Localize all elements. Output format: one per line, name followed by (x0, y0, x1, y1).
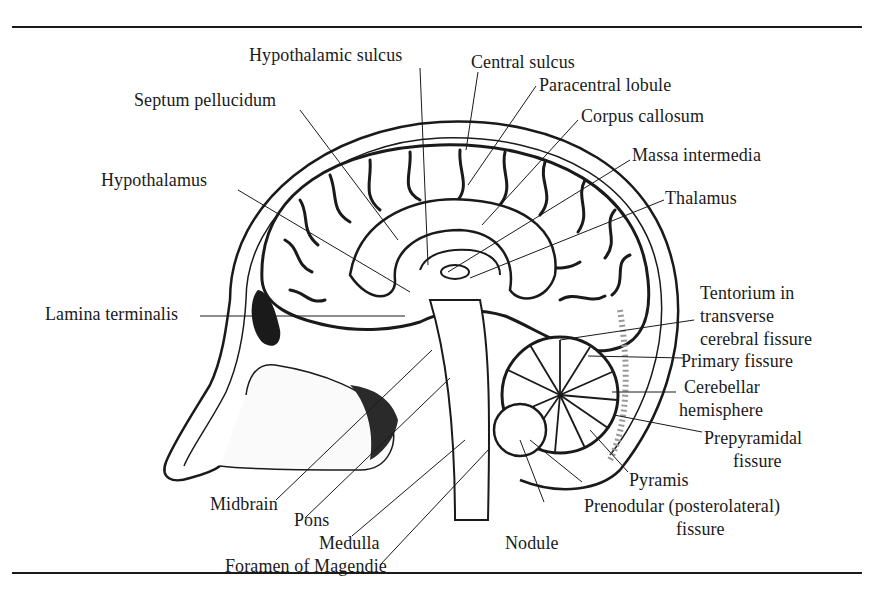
brainstem (430, 300, 489, 520)
label-prepyramidal-line1: Prepyramidal (704, 428, 802, 449)
label-prenodular-line2: fissure (676, 519, 725, 540)
label-tentorium-line1: Tentorium in (700, 283, 794, 304)
label-midbrain: Midbrain (210, 494, 278, 515)
label-prenodular-line1: Prenodular (posterolateral) (584, 496, 780, 517)
label-massa-intermedia: Massa intermedia (632, 145, 761, 166)
label-thalamus: Thalamus (665, 188, 737, 209)
label-paracentral-lobule: Paracentral lobule (539, 75, 671, 96)
label-septum-pellucidum: Septum pellucidum (134, 90, 276, 111)
label-lamina-terminalis: Lamina terminalis (45, 304, 178, 325)
label-hypothalamic-sulcus: Hypothalamic sulcus (249, 45, 402, 66)
label-prepyramidal-line2: fissure (733, 451, 782, 472)
label-pyramis: Pyramis (629, 470, 689, 491)
label-central-sulcus: Central sulcus (471, 52, 575, 73)
label-foramen-of-magendie: Foramen of Magendie (225, 556, 387, 577)
face-profile (164, 300, 230, 480)
label-primary-fissure: Primary fissure (681, 351, 793, 372)
label-corpus-callosum: Corpus callosum (581, 106, 704, 127)
label-hypothalamus: Hypothalamus (101, 170, 207, 191)
label-tentorium-line2: transverse (700, 306, 774, 327)
label-pons: Pons (294, 510, 329, 531)
label-cerebellar-line1: Cerebellar (684, 377, 760, 398)
label-cerebellar-line2: hemisphere (679, 400, 763, 421)
label-medulla: Medulla (319, 533, 380, 554)
label-tentorium-line3: cerebral fissure (700, 329, 812, 350)
label-nodule: Nodule (505, 533, 559, 554)
